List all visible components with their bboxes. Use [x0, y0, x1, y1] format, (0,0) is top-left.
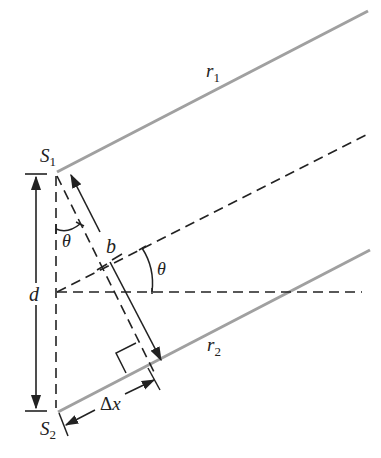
label-s2: S2 — [40, 418, 56, 442]
dx-arrow-left — [66, 410, 95, 425]
b-arrow — [71, 175, 100, 232]
center-ray-dashed — [57, 134, 368, 292]
ray-r2 — [58, 250, 370, 412]
b-arrow-lower — [110, 262, 161, 360]
label-theta-mid: θ — [157, 259, 166, 279]
perpendicular-dashed — [57, 176, 154, 372]
diagram-canvas: S1 S2 r1 r2 d b θ θ Δx — [0, 0, 381, 458]
label-r2: r2 — [207, 334, 221, 359]
dx-tick-right — [148, 368, 160, 390]
label-d: d — [29, 283, 40, 305]
label-s1: S1 — [40, 145, 56, 169]
label-delta-x: Δx — [100, 393, 121, 414]
label-r1: r1 — [206, 60, 220, 85]
right-angle-marker — [116, 343, 136, 373]
theta-arc-mid — [142, 248, 153, 292]
label-theta-top: θ — [62, 231, 71, 251]
dx-arrow-right — [125, 380, 154, 394]
ray-r1 — [57, 11, 368, 172]
theta-arc-top — [56, 224, 80, 231]
label-b: b — [106, 235, 116, 257]
